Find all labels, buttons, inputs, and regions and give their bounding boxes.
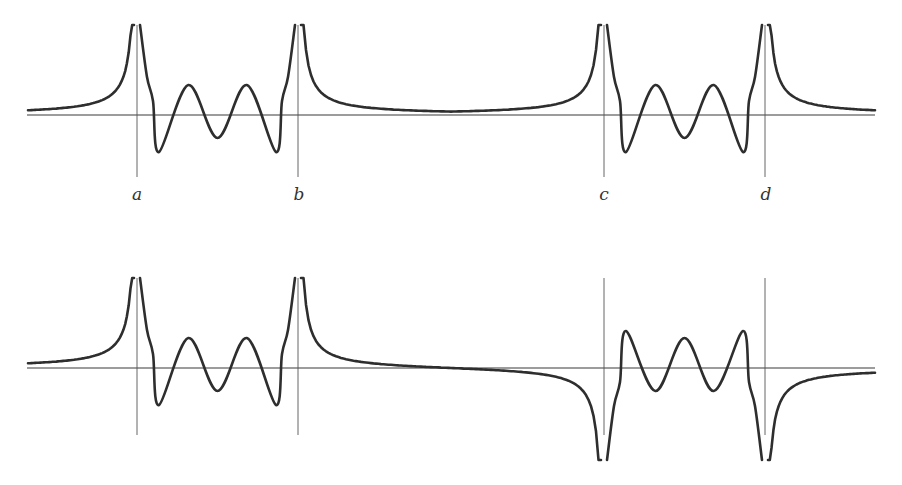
bottom-curve bbox=[28, 278, 875, 460]
label-b: b bbox=[294, 184, 305, 204]
label-d: d bbox=[761, 184, 772, 204]
label-a: a bbox=[132, 184, 142, 204]
top-curve bbox=[28, 25, 875, 152]
bottom-plot bbox=[27, 278, 875, 460]
top-plot: a b c d bbox=[27, 25, 875, 204]
label-c: c bbox=[599, 184, 609, 204]
figure-canvas: a b c d bbox=[0, 0, 902, 485]
